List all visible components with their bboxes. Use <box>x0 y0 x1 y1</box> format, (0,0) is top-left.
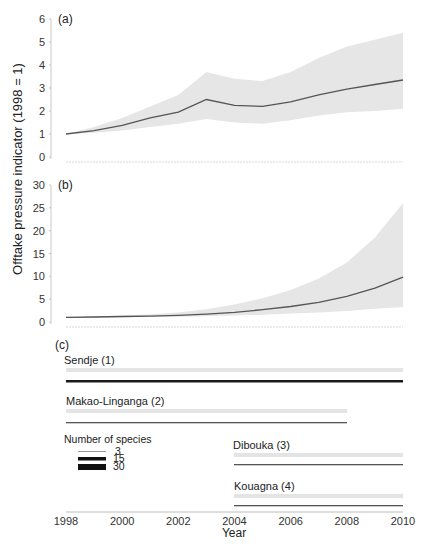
panel-c: (c) Sendje (1) Makao-Linganga (2) Number… <box>54 338 415 540</box>
legend-swatch-30 <box>78 464 106 470</box>
y-tick-label: 3 <box>39 82 45 94</box>
site-band-makao-linganga <box>66 409 347 413</box>
site-label-sendje: Sendje (1) <box>64 354 115 366</box>
x-tick-label: 2006 <box>278 515 302 527</box>
panel-a-y-axis: 0123456 <box>39 13 51 163</box>
species-legend: Number of species 3 15 30 <box>64 433 152 472</box>
site-line-dibouka <box>234 464 403 465</box>
legend-swatch-15 <box>78 457 106 461</box>
x-tick-label: 2008 <box>335 515 359 527</box>
site-line-makao-linganga <box>66 422 347 423</box>
site-band-sendje <box>66 368 403 372</box>
y-axis-title: Offtake pressure indicator (1998 = 1) <box>10 63 25 275</box>
x-tick-label: 2002 <box>166 515 190 527</box>
site-label-makao-linganga: Makao-Linganga (2) <box>66 395 164 407</box>
x-axis-title: Year <box>222 526 246 540</box>
panel-c-label: (c) <box>55 338 69 352</box>
site-band-kouagna <box>234 494 403 498</box>
site-label-kouagna: Kouagna (4) <box>234 480 295 492</box>
y-tick-label: 5 <box>39 293 45 305</box>
site-line-sendje <box>66 380 403 383</box>
site-label-dibouka: Dibouka (3) <box>233 439 290 451</box>
y-tick-label: 20 <box>33 225 45 237</box>
panel-b: (b) 051015202530 <box>33 178 403 328</box>
legend-title: Number of species <box>64 433 152 445</box>
y-tick-label: 6 <box>39 13 45 25</box>
panel-b-y-axis: 051015202530 <box>33 179 51 328</box>
panel-a: (a) 0123456 <box>39 12 403 163</box>
y-tick-label: 15 <box>33 248 45 260</box>
legend-swatch-3 <box>78 451 106 452</box>
x-tick-label: 2010 <box>391 515 415 527</box>
y-tick-label: 5 <box>39 36 45 48</box>
y-tick-label: 0 <box>39 151 45 163</box>
y-tick-label: 10 <box>33 270 45 282</box>
panel-b-label: (b) <box>58 178 73 192</box>
panel-a-confidence-band <box>66 33 403 134</box>
legend-value-30: 30 <box>113 460 125 472</box>
x-tick-label: 1998 <box>54 515 78 527</box>
y-tick-label: 0 <box>39 316 45 328</box>
site-line-kouagna <box>234 505 403 506</box>
y-tick-label: 1 <box>39 128 45 140</box>
y-tick-label: 30 <box>33 179 45 191</box>
y-tick-label: 25 <box>33 202 45 214</box>
y-tick-label: 2 <box>39 105 45 117</box>
x-tick-label: 2000 <box>110 515 134 527</box>
y-tick-label: 4 <box>39 59 45 71</box>
panel-b-confidence-band <box>66 203 403 317</box>
site-band-dibouka <box>234 453 403 457</box>
offtake-pressure-figure: Offtake pressure indicator (1998 = 1) (a… <box>0 0 422 547</box>
panel-a-label: (a) <box>58 12 73 26</box>
